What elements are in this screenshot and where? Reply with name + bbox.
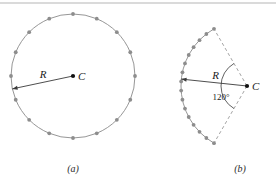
radius-label: R [39,68,47,80]
center-label: C [78,70,86,82]
sector-vertex-dot [245,84,249,88]
bead-dot [128,50,132,54]
bead-dot [192,123,196,127]
bead-dot [71,136,75,140]
bead-dot [95,131,99,135]
bead-group-sector [179,27,216,145]
sector-radius-dashed-lower [214,29,247,86]
bead-dot [9,74,13,78]
bead-dot [179,80,183,84]
bead-dot [95,17,99,21]
bead-dot [27,30,31,34]
bead-dot [212,27,216,31]
bead-dot [187,53,191,57]
bead-dot [47,17,51,21]
bead-dot [192,45,196,49]
bead-dot [204,136,208,140]
bead-dot [183,62,187,66]
bead-dot [198,130,202,134]
figure-svg: C R (a) C R 120° (b) [0,0,276,180]
caption-b: (b) [234,163,246,175]
bead-dot [115,30,119,34]
panel-b-sector-diagram: C R 120° (b) [179,27,260,175]
radius-arrowhead-icon [12,86,18,90]
sector-radius-label: R [211,69,219,81]
figure-container: C R (a) C R 120° (b) [0,0,276,180]
bead-dot [212,141,216,145]
bead-dot [47,131,51,135]
center-point-dot [71,74,75,78]
bead-dot [14,98,18,102]
bead-dot [14,50,18,54]
bead-dot [183,107,187,111]
bead-dot [204,32,208,36]
bead-dot [115,118,119,122]
bead-dot [181,98,185,102]
sector-arc-outline [181,29,214,143]
sector-center-label: C [252,80,260,92]
bead-dot [198,38,202,42]
bead-dot [181,70,185,74]
bead-dot [179,89,183,93]
angle-label: 120° [212,92,230,102]
bead-dot [71,12,75,16]
bead-dot [133,74,137,78]
bead-dot [187,115,191,119]
bead-dot [128,98,132,102]
bead-dot [27,118,31,122]
caption-a: (a) [67,163,79,175]
panel-a-circle-diagram: C R (a) [9,12,137,175]
